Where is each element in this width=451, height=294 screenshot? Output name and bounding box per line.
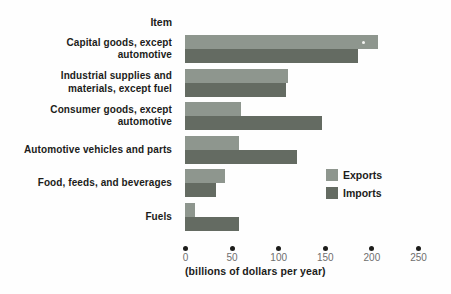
- exports-bar: [185, 102, 241, 116]
- legend-item-imports: Imports: [326, 187, 382, 199]
- imports-bar: [185, 83, 286, 97]
- axis-tick-label: 0: [166, 252, 206, 263]
- category-label: Food, feeds, and beverages: [0, 168, 172, 198]
- exports-bar: [185, 35, 378, 49]
- exports-bar: [185, 69, 288, 83]
- category-label: Capital goods, exceptautomotive: [0, 34, 172, 64]
- exports-bar: [185, 136, 239, 150]
- legend: Exports Imports: [326, 169, 382, 199]
- axis-tick-label: 150: [305, 252, 345, 263]
- axis-tick-dot: [323, 246, 328, 251]
- exports-bar: [185, 169, 225, 183]
- legend-label-imports: Imports: [343, 187, 382, 199]
- legend-item-exports: Exports: [326, 169, 382, 181]
- imports-bar: [185, 150, 297, 164]
- axis-tick-dot: [416, 246, 421, 251]
- item-column-header: Item: [0, 16, 172, 28]
- category-label: Automotive vehicles and parts: [0, 135, 172, 165]
- imports-bar: [185, 183, 216, 197]
- trade-bar-chart: Item Capital goods, exceptautomotiveIndu…: [0, 0, 451, 294]
- axis-tick-label: 50: [212, 252, 252, 263]
- legend-label-exports: Exports: [343, 169, 382, 181]
- white-speck: [362, 41, 365, 44]
- imports-bar: [185, 49, 358, 63]
- exports-bar: [185, 203, 195, 217]
- axis-tick-dot: [183, 246, 188, 251]
- exports-swatch-icon: [326, 169, 338, 181]
- imports-bar: [185, 116, 322, 130]
- axis-tick-label: 200: [352, 252, 392, 263]
- imports-bar: [185, 217, 239, 231]
- category-label: Industrial supplies andmaterials, except…: [0, 68, 172, 98]
- x-axis-label: (billions of dollars per year): [185, 265, 326, 277]
- imports-swatch-icon: [326, 187, 338, 199]
- axis-tick-dot: [230, 246, 235, 251]
- axis-tick-dot: [369, 246, 374, 251]
- axis-tick-label: 100: [259, 252, 299, 263]
- axis-tick-dot: [276, 246, 281, 251]
- axis-tick-label: 250: [399, 252, 439, 263]
- category-label: Fuels: [0, 202, 172, 232]
- category-label: Consumer goods, exceptautomotive: [0, 101, 172, 131]
